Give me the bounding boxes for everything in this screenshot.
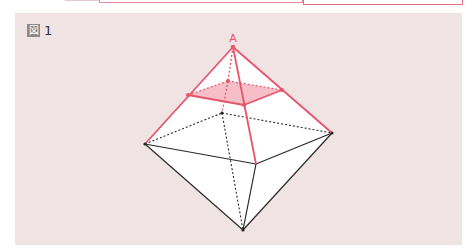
octahedron-diagram: A	[0, 0, 474, 252]
vertex-label-a: A	[229, 32, 237, 45]
